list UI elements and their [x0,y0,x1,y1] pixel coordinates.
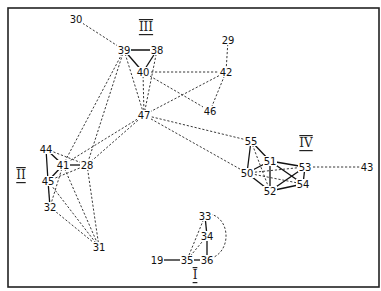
node-29: 29 [221,35,235,46]
diagram-frame [8,8,379,287]
node-label: 44 [40,144,53,155]
node-label: 38 [151,45,164,56]
edge-47-55 [144,115,251,141]
node-label: 19 [151,255,164,266]
node-32: 32 [43,202,57,213]
node-31: 31 [92,242,106,253]
cluster-label-IV: IV [299,136,313,150]
node-30: 30 [69,14,83,25]
node-label: 33 [199,211,212,222]
edge-45-31 [48,181,99,247]
cluster-label-III: III [139,20,153,34]
node-label: 50 [241,168,254,179]
edge-40-46 [143,72,210,111]
node-label: 52 [264,186,277,197]
node-41: 41 [56,160,70,171]
node-label: 41 [57,160,70,171]
node-45: 45 [41,176,55,187]
edge-41-31 [63,165,99,247]
edge-47-28 [87,115,144,165]
node-label: 29 [222,35,235,46]
edge-47-50 [144,115,247,173]
edges-layer [46,19,367,260]
node-label: 40 [137,67,150,78]
node-label: 34 [201,231,214,242]
cluster-label-II: II [16,168,26,182]
node-52: 52 [263,186,277,197]
node-label: 30 [70,14,83,25]
node-55: 55 [244,136,258,147]
node-46: 46 [203,106,217,117]
cluster-labels-layer: IIIIIIIV [16,20,313,282]
node-42: 42 [219,67,233,78]
node-47: 47 [137,110,151,121]
node-38: 38 [150,45,164,56]
cluster-label-I: I [193,268,198,282]
node-label: 32 [44,202,57,213]
node-label: 35 [181,255,194,266]
node-50: 50 [240,168,254,179]
node-label: 51 [264,156,277,167]
edge-39-28 [87,50,124,165]
node-34: 34 [200,231,214,242]
node-label: 55 [245,136,258,147]
node-33: 33 [198,211,212,222]
edge-28-31 [87,165,99,247]
node-51: 51 [263,156,277,167]
node-36: 36 [200,255,214,266]
node-label: 42 [220,67,233,78]
edge-39-41 [63,50,124,165]
node-label: 47 [138,110,151,121]
node-label: 31 [93,242,106,253]
edge-39-47 [124,50,144,115]
node-19: 19 [150,255,164,266]
node-35: 35 [180,255,194,266]
node-39: 39 [117,45,131,56]
node-label: 54 [297,179,310,190]
node-label: 36 [201,255,214,266]
sociogram-diagram: 3039384029424647444128453231555153505254… [0,0,381,291]
node-label: 46 [204,106,217,117]
node-43: 43 [360,162,374,173]
node-40: 40 [136,67,150,78]
node-label: 28 [81,160,94,171]
edge-47-41 [63,115,144,165]
node-44: 44 [39,144,53,155]
node-label: 43 [361,162,374,173]
node-label: 53 [299,162,312,173]
node-54: 54 [296,179,310,190]
node-28: 28 [80,160,94,171]
node-label: 39 [118,45,131,56]
node-label: 45 [42,176,55,187]
node-53: 53 [298,162,312,173]
